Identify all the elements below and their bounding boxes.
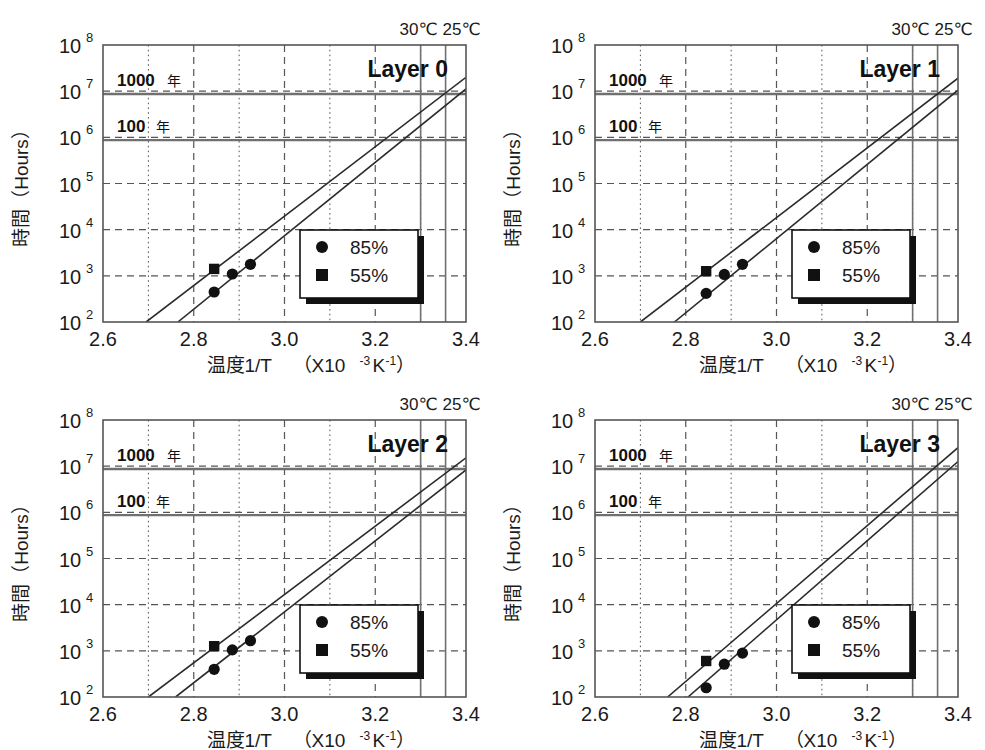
ytick-label: 104: [551, 215, 585, 242]
x-axis-title-unit-mid: K: [865, 730, 878, 750]
year-label-number: 1000: [609, 446, 647, 465]
data-point-circle: [227, 644, 238, 655]
ytick-label: 103: [551, 261, 585, 288]
xtick-label: 2.8: [672, 703, 700, 725]
panel-title: Layer 1: [859, 56, 940, 82]
x-axis-title-unit-mid: K: [373, 355, 386, 375]
x-axis-title-unit-mid: K: [865, 355, 878, 375]
ytick-exponent: 6: [578, 122, 585, 137]
x-axis-title-unit-open: （X10: [293, 730, 346, 750]
ytick-exponent: 3: [86, 261, 93, 276]
x-axis-title: 温度1/T（X10-3K-1）: [207, 354, 415, 375]
xtick-label: 3.2: [361, 703, 389, 725]
ytick-exponent: 2: [578, 682, 585, 697]
ytick-label: 108: [551, 405, 585, 432]
ytick-exponent: 5: [86, 169, 93, 184]
ytick-label: 104: [551, 590, 585, 617]
panel-title: Layer 2: [367, 431, 448, 457]
data-point-circle: [245, 259, 256, 270]
x-axis-title-unit-close: ）: [888, 355, 907, 375]
ytick-exponent: 3: [578, 636, 585, 651]
ytick-exponent: 6: [86, 497, 93, 512]
data-point-circle: [209, 286, 220, 297]
panel-title: Layer 0: [367, 56, 448, 82]
ytick-base: 10: [59, 35, 81, 57]
ytick-label: 104: [59, 215, 93, 242]
legend-marker-circle: [808, 241, 820, 253]
ytick-base: 10: [551, 595, 573, 617]
ytick-label: 102: [59, 682, 93, 709]
ytick-base: 10: [59, 595, 81, 617]
ytick-label: 108: [59, 405, 93, 432]
ytick-base: 10: [551, 35, 573, 57]
xtick-label: 2.6: [89, 328, 117, 350]
x-axis-title-unit-open: （X10: [785, 730, 838, 750]
xtick-label: 3.4: [944, 703, 972, 725]
year-label-number: 1000: [609, 71, 647, 90]
ytick-exponent: 7: [578, 451, 585, 466]
ytick-base: 10: [59, 456, 81, 478]
ytick-base: 10: [551, 81, 573, 103]
ytick-exponent: 7: [86, 76, 93, 91]
temperature-label-1: 25℃: [935, 20, 973, 39]
legend-label: 85%: [350, 612, 388, 633]
ytick-base: 10: [551, 410, 573, 432]
xtick-label: 3.0: [271, 328, 299, 350]
xtick-label: 2.6: [581, 328, 609, 350]
year-label-number: 100: [609, 492, 637, 511]
ytick-exponent: 8: [86, 30, 93, 45]
data-point-square: [701, 266, 711, 276]
ytick-base: 10: [551, 220, 573, 242]
legend: 85%55%: [300, 605, 424, 679]
xtick-label: 3.0: [763, 703, 791, 725]
data-point-circle: [227, 268, 238, 279]
ytick-base: 10: [551, 687, 573, 709]
x-axis-title: 温度1/T（X10-3K-1）: [699, 354, 907, 375]
ytick-base: 10: [59, 81, 81, 103]
ytick-label: 103: [59, 636, 93, 663]
legend-marker-square: [808, 269, 820, 281]
ytick-base: 10: [59, 410, 81, 432]
ytick-exponent: 8: [578, 405, 585, 420]
xtick-label: 3.0: [763, 328, 791, 350]
xtick-label: 3.4: [452, 328, 480, 350]
ytick-base: 10: [59, 312, 81, 334]
data-point-square: [209, 264, 219, 274]
x-axis-title-sup1: -3: [852, 729, 863, 743]
x-axis-title-sup1: -3: [852, 354, 863, 368]
ytick-base: 10: [551, 549, 573, 571]
x-axis-title-unit-close: ）: [396, 730, 415, 750]
year-label-unit: 年: [659, 73, 673, 89]
xtick-label: 3.4: [944, 328, 972, 350]
data-point-circle: [719, 269, 730, 280]
legend-label: 85%: [842, 237, 880, 258]
arrhenius-lifetime-figure: 1021031041051061071082.62.83.03.23.4温度1/…: [0, 0, 985, 750]
y-axis-title: 時間（Hours）: [503, 495, 524, 622]
year-label-unit: 年: [156, 494, 170, 510]
ytick-exponent: 4: [578, 590, 585, 605]
temperature-label-1: 25℃: [935, 395, 973, 414]
data-point-circle: [701, 682, 712, 693]
x-axis-title-sup1: -3: [360, 729, 371, 743]
year-label-unit: 年: [167, 73, 181, 89]
ytick-base: 10: [59, 266, 81, 288]
x-axis-title-main: 温度1/T: [699, 730, 765, 750]
data-point-circle: [209, 664, 220, 675]
y-axis-title: 時間（Hours）: [11, 120, 32, 247]
xtick-label: 2.8: [672, 328, 700, 350]
data-point-circle: [719, 659, 730, 670]
ytick-exponent: 2: [86, 682, 93, 697]
x-axis-title-unit-mid: K: [373, 730, 386, 750]
xtick-label: 3.2: [853, 703, 881, 725]
xtick-label: 2.8: [180, 703, 208, 725]
legend-marker-circle: [316, 616, 328, 628]
ytick-base: 10: [59, 127, 81, 149]
legend-label: 55%: [350, 640, 388, 661]
legend-marker-circle: [316, 241, 328, 253]
ytick-base: 10: [551, 641, 573, 663]
year-label-number: 1000: [117, 446, 155, 465]
ytick-label: 106: [59, 122, 93, 149]
ytick-label: 105: [59, 544, 93, 571]
x-axis-title-sup1: -3: [360, 354, 371, 368]
legend-label: 55%: [350, 265, 388, 286]
